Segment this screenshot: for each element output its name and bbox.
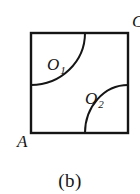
corner-label-a: A	[16, 132, 28, 151]
region-label-o1: O1	[47, 55, 66, 76]
region-label-o1-letter: O	[47, 55, 59, 74]
figure-drawing: O1 O2 A C	[0, 0, 140, 194]
figure-caption: (b)	[0, 171, 140, 190]
figure-container: O1 O2 A C (b)	[0, 0, 140, 194]
region-label-o1-subscript: 1	[60, 64, 66, 76]
region-label-o2-letter: O	[85, 89, 97, 108]
region-label-o2-subscript: 2	[98, 98, 104, 110]
corner-label-c: C	[132, 12, 140, 31]
region-label-o2: O2	[85, 89, 104, 110]
